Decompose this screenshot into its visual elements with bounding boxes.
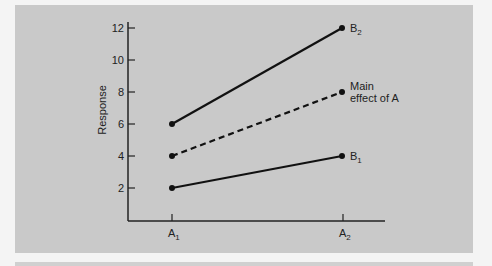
- y-ticks: [128, 28, 135, 188]
- label-main-effect-line1: Main: [350, 80, 374, 92]
- x-label-a2: A2: [339, 227, 351, 242]
- data-points: [169, 25, 345, 191]
- interaction-chart: 12 10 8 6 4 2 Response A1 A2 B2 Main eff…: [0, 0, 492, 266]
- label-main-effect-line2: effect of A: [350, 92, 399, 104]
- y-tick-2: 2: [118, 182, 124, 194]
- x-label-a1: A1: [168, 227, 180, 242]
- y-tick-12: 12: [112, 22, 124, 34]
- series-main-effect-line: [172, 92, 342, 156]
- series-b1-line: [172, 156, 342, 188]
- y-tick-10: 10: [112, 54, 124, 66]
- label-b2: B2: [350, 22, 362, 37]
- y-tick-4: 4: [118, 150, 124, 162]
- y-tick-6: 6: [118, 118, 124, 130]
- y-axis-label: Response: [96, 85, 108, 135]
- series-b2-line: [172, 28, 342, 124]
- label-b1: B1: [350, 150, 362, 165]
- y-tick-8: 8: [118, 86, 124, 98]
